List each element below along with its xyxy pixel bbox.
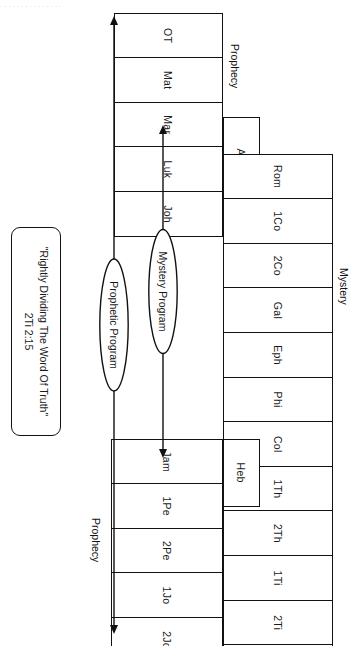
book-cell[interactable]: 2Ti: [223, 600, 333, 646]
book-cell[interactable]: 2Th: [223, 510, 333, 556]
book-cell[interactable]: Eph: [223, 332, 333, 378]
book-cell[interactable]: Gal: [223, 287, 333, 333]
group-label-mystery: Mystery: [338, 268, 350, 305]
book-cell[interactable]: Mat: [114, 57, 223, 103]
verse-reference: 2Ti 2:15: [21, 313, 36, 351]
group-hebrews: Heb: [223, 440, 260, 507]
book-cell[interactable]: 1Co: [223, 198, 333, 244]
group-label-prophecy-top: Prophecy: [229, 44, 241, 88]
book-cell[interactable]: OT: [114, 13, 223, 59]
book-cell[interactable]: Rom: [223, 154, 333, 200]
prophetic-program-arrow-icon: [99, 16, 129, 634]
axis-prophetic-program: Prophetic Program: [99, 16, 129, 634]
book-cell[interactable]: 1Ti: [223, 555, 333, 601]
book-cell[interactable]: Phi: [223, 377, 333, 423]
group-mystery: Rom 1Co 2Co Gal Eph Phi Col 1Th 2Th 1Ti …: [223, 155, 333, 646]
verse-text: "Rightly Dividing The Word Of Truth": [36, 247, 51, 416]
verse-callout-box: "Rightly Dividing The Word Of Truth" 2Ti…: [11, 227, 61, 436]
book-cell[interactable]: Heb: [223, 439, 260, 507]
mystery-program-arrow-icon: [148, 125, 178, 458]
axis-mystery-program: Mystery Program: [148, 125, 178, 458]
book-cell[interactable]: 2Co: [223, 243, 333, 289]
diagram-stage: OT Mat Mar Luk Joh Prophecy Acs Rom 1Co …: [0, 0, 358, 646]
diagram-canvas: OT Mat Mar Luk Joh Prophecy Acs Rom 1Co …: [0, 0, 358, 646]
